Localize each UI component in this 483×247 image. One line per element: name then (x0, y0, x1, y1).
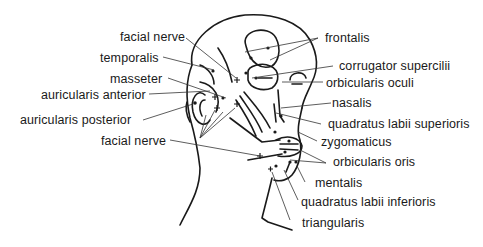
label-nasalis: nasalis (332, 96, 372, 110)
label-masseter: masseter (110, 72, 162, 86)
label-zygomaticus: zygomaticus (321, 135, 392, 149)
label-triangularis: triangularis (302, 216, 364, 230)
label-facial-nerve-top: facial nerve (120, 30, 185, 44)
label-temporalis: temporalis (100, 51, 159, 65)
label-orbicularis-oris: orbicularis oris (333, 155, 415, 169)
label-facial-nerve-bottom: facial nerve (101, 134, 166, 148)
label-frontalis: frontalis (325, 31, 370, 45)
label-auricularis-posterior: auricularis posterior (20, 113, 131, 127)
label-quadratus-labii-superioris: quadratus labii superioris (328, 117, 470, 131)
label-mentalis: mentalis (315, 176, 362, 190)
label-quadratus-labii-inferioris: quadratus labii inferioris (301, 195, 436, 209)
label-orbicularis-oculi: orbicularis oculi (326, 76, 414, 90)
facial-muscles-diagram: facial nerve temporalis masseter auricul… (0, 0, 483, 247)
label-corrugator-supercilii: corrugator supercilii (339, 59, 450, 73)
label-auricularis-anterior: auricularis anterior (41, 88, 146, 102)
